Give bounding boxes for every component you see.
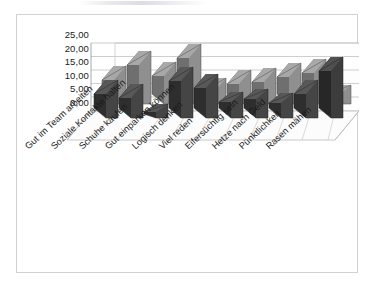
y-tick-15: 15,00 <box>39 57 89 67</box>
y-tick-20: 20,00 <box>39 44 89 54</box>
chart-frame: 25,00 20,00 15,00 10,00 5,00 0,00 Gut im… <box>16 14 358 273</box>
y-tick-25: 25,00 <box>39 30 89 40</box>
y-tick-10: 10,00 <box>39 71 89 81</box>
scan-artifact <box>78 1 208 5</box>
screenshot-page: 25,00 20,00 15,00 10,00 5,00 0,00 Gut im… <box>0 0 376 291</box>
